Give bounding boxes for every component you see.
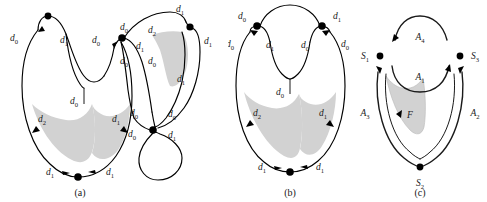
label-a-top-d1: d1 bbox=[176, 4, 184, 16]
arrow-b-node1 bbox=[250, 30, 258, 36]
caption-a: (a) bbox=[74, 187, 85, 199]
label-a-loop-downleft-d0: d0 bbox=[128, 129, 137, 141]
label-c-s1: S1 bbox=[361, 51, 369, 63]
label-a-loop-upleft-d0: d0 bbox=[130, 108, 139, 120]
panel-b: d0 d1 d0 d1 d0 d0 d0 d2 d1 d1 d1 (b) bbox=[228, 0, 368, 202]
label-c-a3: A3 bbox=[359, 108, 370, 120]
label-a-mid-left: d0 bbox=[92, 35, 101, 47]
arrow-b-bottom-right bbox=[300, 165, 308, 169]
arrow-b-bottom-left bbox=[274, 166, 282, 170]
node-b-3 bbox=[286, 168, 294, 176]
edge-a-to-loopnode-left bbox=[152, 112, 155, 127]
edge-a-to-loopnode-right bbox=[134, 118, 150, 130]
caption-c: (c) bbox=[414, 187, 425, 199]
label-b-left-outer-d0: d0 bbox=[228, 39, 235, 51]
arrow-c-a2 bbox=[458, 66, 464, 74]
top-lobe-b bbox=[260, 5, 320, 26]
node-a-4 bbox=[74, 173, 82, 181]
label-a-node2-right: d1 bbox=[136, 41, 144, 53]
label-a-right-inner-d1: d1 bbox=[177, 74, 185, 86]
arrow-c-a1 bbox=[445, 64, 451, 72]
caption-b: (b) bbox=[284, 187, 296, 199]
bump-a-node1-right bbox=[48, 16, 104, 82]
node-a-3 bbox=[186, 23, 193, 30]
arrow-b-node2 bbox=[322, 30, 330, 36]
arrow-a-node2-in bbox=[112, 41, 118, 48]
label-a-center-d0: d0 bbox=[70, 96, 79, 108]
label-b-top-left-d0: d0 bbox=[238, 11, 247, 23]
panel-a: d0 d1 d0 d0 d1 d0 d0 d2 d1 d1 d1 d0 d2 d… bbox=[0, 0, 232, 202]
label-c-a1: A1 bbox=[414, 72, 424, 84]
node-b-1 bbox=[253, 22, 261, 30]
shaded-region-a-left bbox=[32, 104, 95, 162]
label-a-bottom-left-d1: d1 bbox=[46, 167, 54, 179]
node-c-s2 bbox=[417, 164, 424, 171]
arrow-a-lowleft bbox=[32, 126, 40, 133]
node-b-2 bbox=[318, 22, 326, 30]
arrow-c-a4 bbox=[392, 34, 399, 42]
label-a-loop-downright-d1: d1 bbox=[168, 130, 176, 142]
label-b-bottom-right-d1: d1 bbox=[316, 162, 324, 174]
label-a-mid-right: d0 bbox=[120, 22, 129, 34]
label-c-s3: S3 bbox=[471, 51, 480, 63]
arrow-a-node1-in bbox=[38, 26, 45, 32]
label-c-a4: A4 bbox=[414, 32, 425, 44]
label-b-bottom-left-d1: d1 bbox=[258, 162, 266, 174]
arrow-c-a3 bbox=[376, 66, 382, 74]
label-b-top-right-d1: d1 bbox=[333, 11, 341, 23]
label-a-node2-downright2: d0 bbox=[148, 56, 157, 68]
label-a-right-d1: d1 bbox=[204, 36, 212, 48]
label-c-a2: A2 bbox=[469, 108, 479, 120]
label-a-left-outer: d0 bbox=[10, 33, 19, 45]
label-a-top-d2: d2 bbox=[148, 25, 156, 37]
inner-arc-a bbox=[104, 48, 114, 76]
label-b-center-d0: d0 bbox=[276, 87, 285, 99]
node-c-s1 bbox=[377, 53, 384, 60]
label-b-right-outer-d0: d0 bbox=[341, 39, 350, 51]
node-a-loop bbox=[149, 126, 157, 134]
figure-container: d0 d1 d0 d0 d1 d0 d0 d2 d1 d1 d1 d0 d2 d… bbox=[0, 0, 487, 202]
arc-c-a2 bbox=[420, 72, 463, 167]
label-b-right-inner-d0: d0 bbox=[301, 40, 310, 52]
label-a-loop-upright-d0: d0 bbox=[168, 109, 177, 121]
arrow-b-lowleft bbox=[246, 120, 254, 127]
label-a-bottom-right-d1: d1 bbox=[106, 167, 114, 179]
label-b-left-inner-d1: d1 bbox=[266, 40, 274, 52]
node-a-2 bbox=[118, 34, 126, 42]
node-c-s3 bbox=[457, 53, 464, 60]
panel-c: S1 S3 S2 A4 A1 A3 A2 F (c) bbox=[356, 0, 487, 202]
arrow-a-bottom-right bbox=[88, 170, 96, 174]
label-c-f: F bbox=[406, 110, 413, 120]
node-a-1 bbox=[45, 13, 52, 20]
